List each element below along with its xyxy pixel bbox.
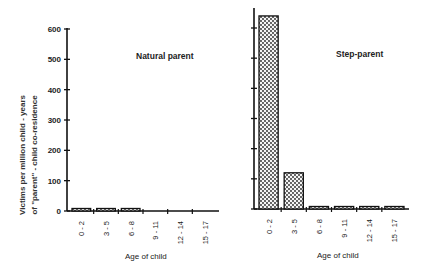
y-tick-label: 500 [48,55,62,64]
y-axis-title: Victims per million child - years of "pa… [18,95,39,215]
category-label: 3 - 5 [290,219,299,234]
step-parent-panel: 0 - 23 - 56 - 89 - 1112 - 1415 - 17 Step… [251,8,409,260]
category-label: 0 - 2 [77,221,86,236]
category-label: 15 - 17 [390,219,399,242]
bar-0-2 [72,209,91,212]
category-label: 15 - 17 [201,221,210,244]
y-tick-label: 600 [48,25,62,34]
category-label: 6 - 8 [315,219,324,234]
y-tick-label: 400 [48,86,62,95]
category-label: 0 - 2 [265,219,274,234]
left-category-labels: 0 - 23 - 56 - 89 - 1112 - 1415 - 17 [77,221,209,244]
bar-3-5 [284,173,303,209]
y-tick-label: 300 [48,116,62,125]
bar-12-14 [360,207,379,210]
category-label: 6 - 8 [127,221,136,236]
chart-canvas: Victims per million child - years of "pa… [0,0,422,273]
y-axis-title-line1: Victims per million child - years [18,95,27,215]
y-tick-label: 200 [48,146,62,155]
bar-3-5 [97,209,116,212]
category-label: 9 - 11 [340,219,349,238]
right-category-labels: 0 - 23 - 56 - 89 - 1112 - 1415 - 17 [265,219,400,242]
category-label: 12 - 14 [365,219,374,242]
left-panel-title: Natural parent [136,51,194,61]
bar-6-8 [309,207,328,210]
bar-15-17 [385,207,404,210]
category-label: 12 - 14 [176,221,185,244]
left-x-axis-title: Age of child [125,252,167,261]
category-label: 9 - 11 [151,221,160,240]
category-label: 3 - 5 [102,221,111,236]
right-bars [259,16,404,209]
y-tick-label: 0 [57,207,62,216]
left-bars [72,209,140,212]
bar-0-2 [259,16,278,209]
bar-9-11 [335,207,354,210]
y-axis-title-line2: of "parent" - child co-residence [30,95,39,215]
y-tick-label: 100 [48,177,62,186]
right-x-axis-title: Age of child [317,251,359,260]
bar-6-8 [121,209,140,212]
right-panel-title: Step-parent [336,49,383,59]
natural-parent-panel: 0100200300400500600 0 - 23 - 56 - 89 - 1… [48,25,219,261]
